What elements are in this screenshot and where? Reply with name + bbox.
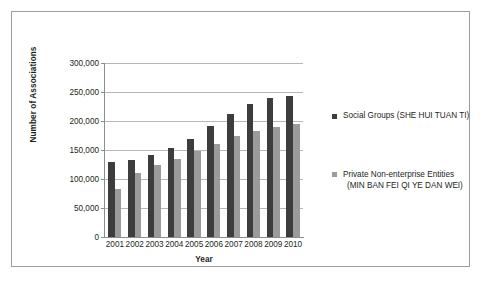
x-axis-tick-label: 2003 bbox=[145, 240, 165, 249]
bar bbox=[108, 162, 115, 237]
bar bbox=[293, 124, 300, 237]
legend-entry-social-groups: Social Groups (SHE HUI TUAN TI) bbox=[332, 110, 482, 122]
x-axis-tick-labels: 2001200220032004200520062007200820092010 bbox=[105, 240, 303, 249]
bar-group bbox=[145, 63, 165, 237]
bar-group bbox=[263, 63, 283, 237]
bar bbox=[194, 151, 201, 237]
y-axis-tick-label: 300,000 bbox=[69, 59, 99, 68]
x-axis-tick-label: 2001 bbox=[105, 240, 125, 249]
y-axis-tick-label: 100,000 bbox=[69, 175, 99, 184]
y-axis-tick-label: 0 bbox=[94, 233, 99, 242]
x-axis-title: Year bbox=[105, 255, 303, 264]
bar bbox=[227, 114, 234, 237]
y-axis-tick-label: 50,000 bbox=[74, 204, 99, 213]
bar-group bbox=[125, 63, 145, 237]
x-axis-tick-label: 2009 bbox=[263, 240, 283, 249]
x-axis-tick-label: 2002 bbox=[125, 240, 145, 249]
bar bbox=[154, 165, 161, 237]
y-axis-title: Number of Associations bbox=[29, 30, 38, 160]
legend-label-private-non-enterprise-line2: (MIN BAN FEI QI YE DAN WEI) bbox=[343, 180, 482, 192]
bar bbox=[253, 131, 260, 237]
x-axis-tick-label: 2008 bbox=[244, 240, 264, 249]
bar bbox=[174, 159, 181, 237]
bar bbox=[207, 126, 214, 237]
bar bbox=[135, 173, 142, 237]
x-axis-tick-label: 2010 bbox=[283, 240, 303, 249]
bar bbox=[214, 144, 221, 237]
bar-group bbox=[244, 63, 264, 237]
bar-group bbox=[164, 63, 184, 237]
chart-frame: Number of Associations 050,000100,000150… bbox=[11, 11, 470, 267]
bar bbox=[115, 189, 122, 237]
bar bbox=[148, 155, 155, 237]
legend-label-private-non-enterprise: Private Non-enterprise Entities bbox=[343, 170, 454, 179]
bar bbox=[247, 104, 254, 237]
x-axis-line bbox=[105, 237, 304, 238]
bar bbox=[128, 160, 135, 237]
legend-swatch-icon-private-non-enterprise bbox=[332, 172, 337, 177]
bar bbox=[234, 136, 241, 237]
bar-group bbox=[283, 63, 303, 237]
plot-area: 050,000100,000150,000200,000250,000300,0… bbox=[105, 63, 303, 237]
x-axis-tick-label: 2006 bbox=[204, 240, 224, 249]
bar-group bbox=[184, 63, 204, 237]
bar bbox=[286, 96, 293, 237]
bar bbox=[187, 139, 194, 237]
legend-entry-private-non-enterprise: Private Non-enterprise Entities (MIN BAN… bbox=[332, 169, 482, 192]
x-axis-tick-label: 2004 bbox=[164, 240, 184, 249]
legend-swatch-icon-social-groups bbox=[332, 114, 337, 119]
bar bbox=[168, 148, 175, 237]
bar-groups bbox=[105, 63, 303, 237]
legend-label-social-groups: Social Groups (SHE HUI TUAN TI) bbox=[343, 111, 469, 120]
x-axis-tick-label: 2007 bbox=[224, 240, 244, 249]
y-axis-tick-label: 150,000 bbox=[69, 146, 99, 155]
bar-group bbox=[105, 63, 125, 237]
chart-legend: Social Groups (SHE HUI TUAN TI) Private … bbox=[332, 110, 482, 192]
y-axis-tick-label: 250,000 bbox=[69, 88, 99, 97]
x-axis-tick-label: 2005 bbox=[184, 240, 204, 249]
bar-group bbox=[204, 63, 224, 237]
y-axis-tick-label: 200,000 bbox=[69, 117, 99, 126]
bar bbox=[273, 127, 280, 237]
bar-group bbox=[224, 63, 244, 237]
bar bbox=[267, 98, 274, 237]
